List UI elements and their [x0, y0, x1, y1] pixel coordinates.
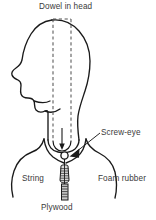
- label-string: String: [22, 174, 44, 183]
- jaw-line-path: [34, 101, 50, 103]
- screw-eye-icon: [61, 152, 68, 159]
- leader-line-screw-eye: [70, 133, 101, 158]
- label-foam-rubber: Foam rubber: [98, 174, 146, 183]
- foam-right-cradle-path: [66, 139, 86, 163]
- foam-right-path: [86, 139, 117, 198]
- label-dowel-in-head: Dowel in head: [39, 2, 92, 11]
- plywood-group: [62, 184, 69, 200]
- label-screw-eye: Screw-eye: [101, 128, 141, 137]
- head-profile-group: [12, 20, 90, 153]
- arrow-dowel-tip: [59, 128, 65, 150]
- foam-left-path: [12, 139, 44, 197]
- label-plywood: Plywood: [41, 203, 73, 212]
- leader-screw-eye-shaft: [76, 133, 100, 152]
- diagram-svg: [0, 0, 156, 220]
- arrow-dowel-head: [59, 144, 65, 151]
- dowel-group: [53, 19, 71, 141]
- figure-container: Dowel in head Screw-eye String Foam rubb…: [0, 0, 156, 220]
- head-outline-path: [12, 20, 52, 140]
